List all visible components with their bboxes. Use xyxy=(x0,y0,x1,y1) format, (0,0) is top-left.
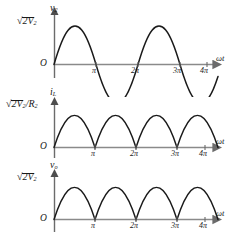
curve-load-current xyxy=(54,116,218,148)
amplitude-label-3: √2V2 xyxy=(16,172,37,183)
xtick-label-2-2pi: 2π xyxy=(130,150,138,158)
waveform-canvas xyxy=(0,0,229,242)
origin-label-3: O xyxy=(40,214,47,224)
amplitude-label-1: √2V2 xyxy=(16,16,37,27)
xtick-label-2-4pi: 4π xyxy=(199,150,207,158)
xtick-label-3-pi: π xyxy=(91,222,95,230)
xtick-label-2-3pi: 3π xyxy=(171,150,179,158)
xtick-label-3-3pi: 3π xyxy=(171,222,179,230)
xtick-label-1-2pi: 2π xyxy=(131,67,139,75)
amplitude-label-2: √2V2/R2 xyxy=(5,99,38,110)
xtick-label-3-2pi: 2π xyxy=(130,222,138,230)
waveform-figure: v2 √2V2 O π 2π 3π 4π ωt iL √2V2/R2 O π 2… xyxy=(0,0,229,242)
xtick-label-2-pi: π xyxy=(91,150,95,158)
origin-label-1: O xyxy=(40,59,47,69)
y-axis-label-v2: v2 xyxy=(50,3,58,14)
x-axis-label-3: ωt xyxy=(216,209,224,218)
y-axis-label-vo: vo xyxy=(50,160,58,171)
y-axis-label-il: iL xyxy=(50,87,56,98)
xtick-label-3-4pi: 4π xyxy=(199,222,207,230)
x-axis-label-1: ωt xyxy=(216,54,224,63)
panel-secondary-voltage xyxy=(54,14,218,103)
origin-label-2: O xyxy=(40,142,47,152)
x-axis-label-2: ωt xyxy=(216,137,224,146)
xtick-label-1-3pi: 3π xyxy=(173,67,181,75)
curve-output-voltage xyxy=(54,188,218,220)
xtick-label-1-pi: π xyxy=(92,67,96,75)
xtick-label-1-4pi: 4π xyxy=(200,67,208,75)
